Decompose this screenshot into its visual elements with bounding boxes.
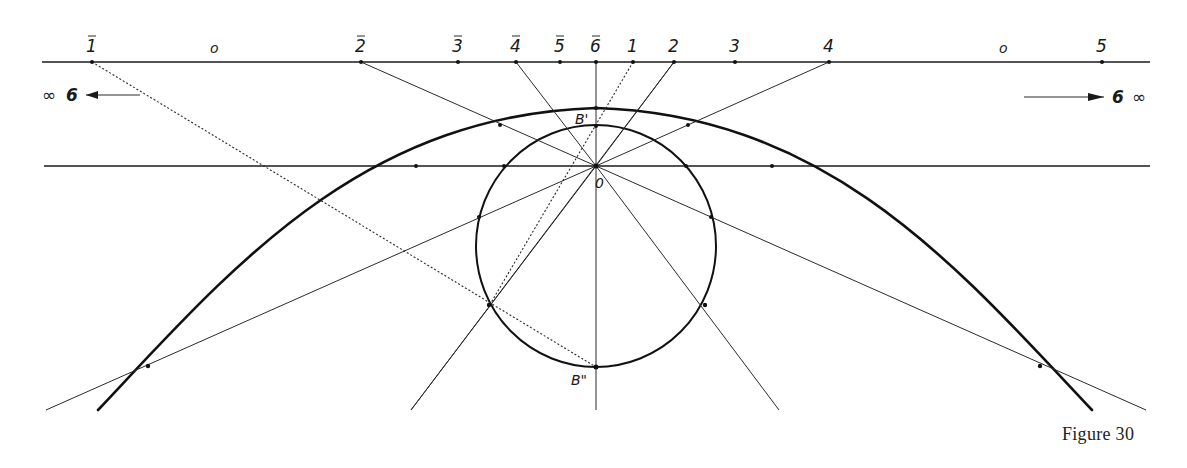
label-1: 1 (627, 36, 638, 56)
ray-right-steep (596, 166, 779, 410)
ray-2bar (361, 62, 596, 166)
label-3: 3 (729, 36, 740, 56)
ray-2-extension (411, 62, 674, 410)
label-b-prime: B' (575, 111, 588, 127)
label-3bar: 3 (452, 36, 463, 56)
intersection-points (146, 106, 1042, 370)
ray-left-low (46, 166, 596, 410)
label-5bar: 5 (554, 36, 565, 56)
label-o-left: o (210, 40, 219, 56)
infinity-symbol-left: ∞ (42, 85, 56, 105)
figure-caption: Figure 30 (1062, 424, 1134, 445)
projective-construction-diagram: 1 o 2 3 4 5 6 1 2 3 4 o 5 ∞ 6 6 ∞ B' 0 B… (0, 0, 1187, 468)
label-6bar: 6 (590, 36, 601, 56)
label-origin: 0 (595, 175, 604, 191)
label-b-double-prime: B" (571, 372, 587, 388)
parabola-curve (98, 108, 1092, 410)
label-4: 4 (823, 36, 834, 56)
arrowhead-left-icon (86, 91, 98, 99)
infinity-digit-right: 6 (1112, 87, 1124, 107)
label-2: 2 (668, 36, 679, 56)
infinity-digit-left: 6 (66, 85, 78, 105)
dotted-line-1bar-to-b-double-prime (92, 62, 596, 367)
right-infinity-indicator: 6 ∞ (1024, 87, 1146, 107)
label-o-right: o (999, 40, 1008, 56)
infinity-symbol-right: ∞ (1132, 87, 1146, 107)
ray-4 (596, 62, 829, 166)
arrowhead-right-icon (1088, 93, 1104, 101)
left-infinity-indicator: ∞ 6 (42, 85, 140, 105)
label-1bar: 1 (86, 36, 97, 56)
top-line-labels: 1 o 2 3 4 5 6 1 2 3 4 o 5 (86, 36, 1107, 56)
dotted-line-1-to-circle (489, 62, 633, 306)
label-5: 5 (1096, 36, 1107, 56)
label-2bar: 2 (355, 36, 366, 56)
label-4bar: 4 (510, 36, 521, 56)
